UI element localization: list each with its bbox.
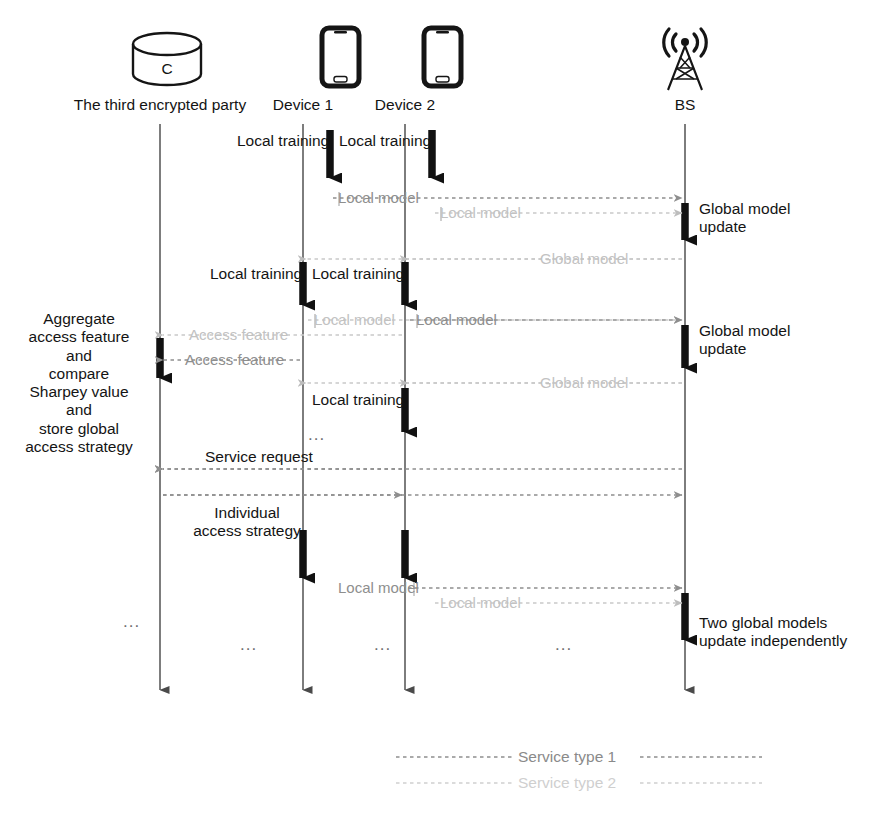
ellipsis-dev1: ... <box>308 425 325 445</box>
msg-label-local-model-2: Local model <box>440 204 521 222</box>
msg-label-global-model-1: Global model <box>540 250 628 268</box>
smartphone-icon-device1 <box>322 28 359 86</box>
ellipsis-tep: ... <box>123 612 140 632</box>
actor-label-device2: Device 2 <box>345 96 465 114</box>
msg-label-global-model-2: Global model <box>540 374 628 392</box>
msg-label-local-model-5: Local model <box>338 579 419 597</box>
note-two-global-models: Two global modelsupdate independently <box>699 614 889 651</box>
ellipsis-gap-2: ... <box>374 635 391 655</box>
note-global-model-update-1: Global modelupdate <box>699 200 879 237</box>
ellipsis-gap-3: ... <box>555 635 572 655</box>
note-global-model-update-2: Global modelupdate <box>699 322 879 359</box>
msg-label-local-model-3: Local model <box>314 311 395 329</box>
msg-label-local-model-1: Local model <box>338 189 419 207</box>
msg-label-access-feature-1: Access feature <box>185 351 284 369</box>
actor-label-bs: BS <box>645 96 725 114</box>
msg-label-individual-strategy: Individualaccess strategy <box>172 504 322 541</box>
note-local-training-dev1-2: Local training <box>210 265 296 283</box>
note-local-training-dev2-2: Local training <box>312 265 398 283</box>
note-local-training-dev2-1: Local training <box>339 132 425 150</box>
msg-label-local-model-6: Local model <box>440 594 521 612</box>
cell-tower-icon <box>664 29 706 90</box>
msg-label-local-model-4: Local model <box>416 311 497 329</box>
smartphone-icon-device2 <box>424 28 461 86</box>
lifelines <box>160 124 685 690</box>
side-note-aggregate: Aggregateaccess featureandcompareSharpey… <box>6 310 152 456</box>
legend-label-service-type-2: Service type 2 <box>518 774 616 792</box>
msg-label-service-request: Service request <box>205 448 313 466</box>
legend-label-service-type-1: Service type 1 <box>518 748 616 766</box>
database-label-c: C <box>152 60 182 78</box>
note-local-training-dev2-3: Local training <box>312 391 398 409</box>
msg-label-access-feature-2: Access feature <box>189 326 288 344</box>
note-local-training-dev1-1: Local training <box>237 132 323 150</box>
ellipsis-gap-1: ... <box>240 635 257 655</box>
